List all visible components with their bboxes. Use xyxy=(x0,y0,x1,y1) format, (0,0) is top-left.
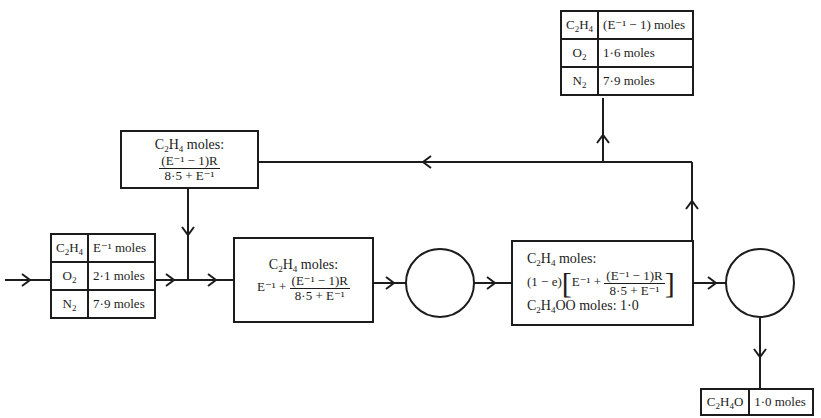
amount-cell: 1·0 moles xyxy=(749,389,813,415)
species-label: C2H4 xyxy=(155,137,183,152)
species-cell: C2H4O xyxy=(701,389,749,415)
table-row: C2H4 E⁻¹ moles xyxy=(51,234,155,262)
reactor-effluent-box: C2H4 moles: (1 − e)[E⁻¹ + (E⁻¹ − 1)R 8·5… xyxy=(511,240,694,326)
reactor-unit xyxy=(405,248,475,318)
product-stream-table: C2H4O 1·0 moles xyxy=(700,388,814,416)
amount-cell: 2·1 moles xyxy=(88,262,155,290)
recycle-fraction: (E⁻¹ − 1)R 8·5 + E⁻¹ xyxy=(159,154,219,183)
table-row: C2H4 (E⁻¹ − 1) moles xyxy=(561,11,693,39)
species-cell: N2 xyxy=(51,290,88,318)
table-row: O2 2·1 moles xyxy=(51,262,155,290)
species-cell: C2H4 xyxy=(51,234,88,262)
amount-cell: 7·9 moles xyxy=(598,67,693,95)
species-label: C2H4O xyxy=(527,298,566,313)
species-cell: C2H4 xyxy=(561,11,598,39)
recycle-stream-box: C2H4 moles: (E⁻¹ − 1)R 8·5 + E⁻¹ xyxy=(120,130,259,189)
separator-unit xyxy=(725,248,795,318)
amount-cell: 1·6 moles xyxy=(598,39,693,67)
table-row: O2 1·6 moles xyxy=(561,39,693,67)
species-cell: O2 xyxy=(561,39,598,67)
species-cell: N2 xyxy=(561,67,598,95)
table-row: C2H4O 1·0 moles xyxy=(701,389,813,415)
species-cell: O2 xyxy=(51,262,88,290)
recycle-fraction: (E⁻¹ − 1)R 8·5 + E⁻¹ xyxy=(290,274,350,303)
species-label: C2H4 xyxy=(527,251,555,266)
flow-lines xyxy=(0,0,821,418)
recycle-fraction: (E⁻¹ − 1)R 8·5 + E⁻¹ xyxy=(604,269,664,298)
amount-cell: (E⁻¹ − 1) moles xyxy=(598,11,693,39)
purge-stream-table: C2H4 (E⁻¹ − 1) moles O2 1·6 moles N2 7·9… xyxy=(560,10,694,96)
reactor-feed-box: C2H4 moles: E⁻¹ + (E⁻¹ − 1)R 8·5 + E⁻¹ xyxy=(233,237,374,323)
amount-cell: 7·9 moles xyxy=(88,290,155,318)
species-label: C2H4 xyxy=(269,257,297,272)
table-row: N2 7·9 moles xyxy=(561,67,693,95)
table-row: N2 7·9 moles xyxy=(51,290,155,318)
feed-stream-table: C2H4 E⁻¹ moles O2 2·1 moles N2 7·9 moles xyxy=(50,233,156,319)
amount-cell: E⁻¹ moles xyxy=(88,234,155,262)
